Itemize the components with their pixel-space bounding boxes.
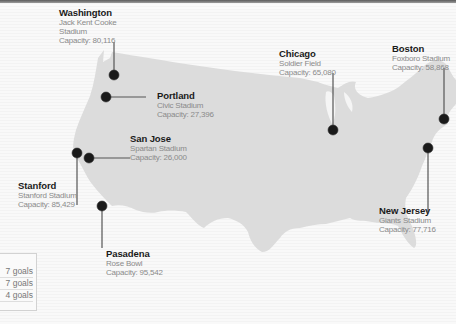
city-name: Washington <box>59 8 116 18</box>
venue-label-chicago: Chicago Soldier Field Capacity: 65,080 <box>279 49 336 77</box>
us-map <box>0 0 456 324</box>
pasadena-marker-icon[interactable] <box>97 201 107 211</box>
city-name: Chicago <box>279 49 336 59</box>
capacity: Capacity: 27,396 <box>157 110 214 119</box>
stadium-name: Civic Stadium <box>157 101 214 110</box>
capacity: Capacity: 80,116 <box>59 36 116 45</box>
venue-label-new-jersey: New Jersey Giants Stadium Capacity: 77,7… <box>379 206 436 234</box>
venue-label-stanford: Stanford Stanford Stadium Capacity: 85,4… <box>18 181 77 209</box>
goals-row: 7 goals <box>0 266 33 278</box>
stanford-marker-icon[interactable] <box>72 148 82 158</box>
city-name: San Jose <box>130 134 187 144</box>
city-name: Portland <box>157 91 214 101</box>
boston-marker-icon[interactable] <box>439 114 449 124</box>
new-jersey-marker-icon[interactable] <box>423 143 433 153</box>
capacity: Capacity: 77,716 <box>379 225 436 234</box>
stadium-name-line2: Stadium <box>59 27 116 36</box>
city-name: Boston <box>392 44 450 54</box>
stadium-name: Foxboro Stadium <box>392 54 450 63</box>
washington-marker-icon[interactable] <box>109 70 119 80</box>
goals-table: 7 goals 7 goals 4 goals <box>0 253 37 311</box>
city-name: Stanford <box>18 181 77 191</box>
venue-label-portland: Portland Civic Stadium Capacity: 27,396 <box>157 91 214 119</box>
san-jose-marker-icon[interactable] <box>84 153 94 163</box>
venue-label-pasadena: Pasadena Rose Bowl Capacity: 95,542 <box>106 249 163 277</box>
goals-row: 7 goals <box>0 278 33 290</box>
chicago-marker-icon[interactable] <box>328 125 338 135</box>
stadium-name: Stanford Stadium <box>18 191 77 200</box>
venue-label-washington: Washington Jack Kent Cooke Stadium Capac… <box>59 8 116 45</box>
stadium-name: Spartan Stadium <box>130 144 187 153</box>
city-name: New Jersey <box>379 206 436 216</box>
capacity: Capacity: 58,868 <box>392 63 450 72</box>
capacity: Capacity: 95,542 <box>106 268 163 277</box>
portland-marker-icon[interactable] <box>101 92 111 102</box>
capacity: Capacity: 26,000 <box>130 153 187 162</box>
stadium-name: Soldier Field <box>279 59 336 68</box>
stadium-name: Giants Stadium <box>379 216 436 225</box>
capacity: Capacity: 85,429 <box>18 200 77 209</box>
venue-label-boston: Boston Foxboro Stadium Capacity: 58,868 <box>392 44 450 72</box>
stadium-name: Jack Kent Cooke <box>59 18 116 27</box>
venue-label-san-jose: San Jose Spartan Stadium Capacity: 26,00… <box>130 134 187 162</box>
city-name: Pasadena <box>106 249 163 259</box>
goals-row: 4 goals <box>0 290 33 302</box>
capacity: Capacity: 65,080 <box>279 68 336 77</box>
stadium-name: Rose Bowl <box>106 259 163 268</box>
